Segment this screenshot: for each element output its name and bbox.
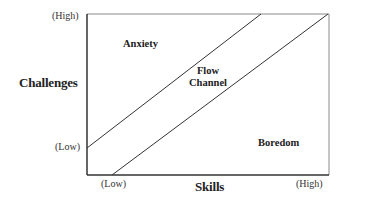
- flow-label-line1: Flow: [188, 65, 228, 77]
- flow-channel-upper-boundary: [87, 14, 261, 148]
- y-axis-high-label: (High): [52, 10, 79, 21]
- region-anxiety-label: Anxiety: [123, 38, 158, 50]
- flow-diagram-canvas: [0, 0, 365, 204]
- x-axis-title: Skills: [195, 179, 224, 195]
- x-axis-high-label: (High): [296, 178, 323, 189]
- x-axis-low-label: (Low): [101, 178, 126, 189]
- region-flow-channel-label: Flow Channel: [188, 65, 228, 89]
- y-axis-title: Challenges: [19, 75, 78, 91]
- flow-label-line2: Channel: [188, 77, 228, 89]
- region-boredom-label: Boredom: [258, 137, 299, 149]
- y-axis-low-label: (Low): [55, 141, 80, 152]
